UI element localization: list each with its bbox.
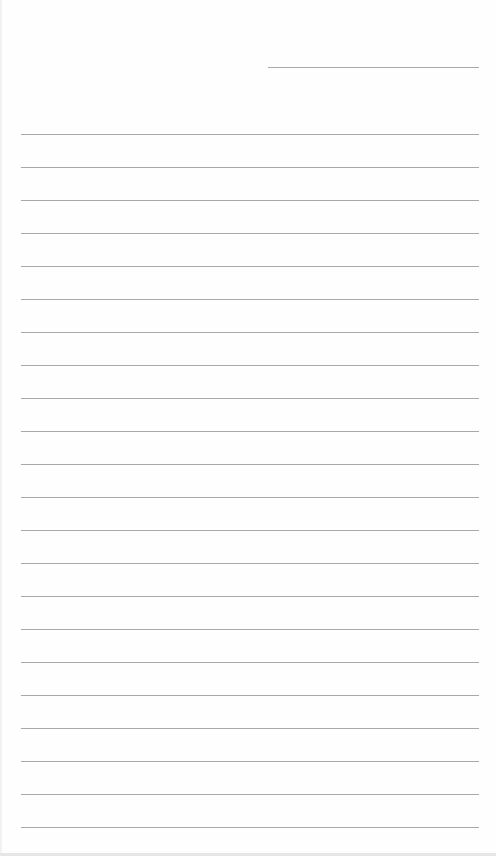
ruled-line bbox=[21, 761, 479, 762]
ruled-line bbox=[21, 464, 479, 465]
ruled-line bbox=[21, 266, 479, 267]
notepaper-sheet bbox=[0, 0, 496, 856]
ruled-line bbox=[21, 530, 479, 531]
ruled-line bbox=[21, 695, 479, 696]
ruled-line bbox=[21, 794, 479, 795]
ruled-line bbox=[21, 596, 479, 597]
header-line bbox=[268, 67, 479, 68]
ruled-line bbox=[21, 332, 479, 333]
ruled-line bbox=[21, 662, 479, 663]
ruled-line bbox=[21, 629, 479, 630]
ruled-line bbox=[21, 233, 479, 234]
ruled-line bbox=[21, 365, 479, 366]
ruled-line bbox=[21, 497, 479, 498]
ruled-line bbox=[21, 728, 479, 729]
ruled-line bbox=[21, 299, 479, 300]
ruled-line bbox=[21, 431, 479, 432]
ruled-line bbox=[21, 563, 479, 564]
ruled-line bbox=[21, 398, 479, 399]
ruled-line bbox=[21, 167, 479, 168]
ruled-line bbox=[21, 134, 479, 135]
ruled-line bbox=[21, 827, 479, 828]
ruled-line bbox=[21, 200, 479, 201]
sheet-left-edge bbox=[0, 0, 2, 856]
